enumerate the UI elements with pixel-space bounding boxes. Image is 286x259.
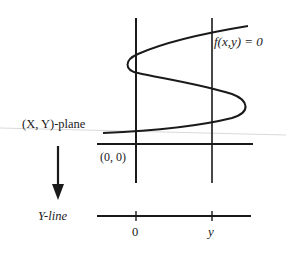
- y-line-label: Y-line: [38, 209, 67, 223]
- tick-label-zero: 0: [132, 225, 138, 239]
- tick-label-y: y: [206, 224, 214, 239]
- projection-diagram: f(x,y) = 0 (X, Y)-plane (0, 0) Y-line 0 …: [0, 0, 286, 259]
- curve-label: f(x,y) = 0: [214, 34, 263, 49]
- origin-label: (0, 0): [100, 150, 126, 164]
- y-line-label-text: Y-line: [38, 209, 67, 223]
- plane-label: (X, Y)-plane: [22, 117, 86, 131]
- arrow-down-icon: [52, 184, 64, 200]
